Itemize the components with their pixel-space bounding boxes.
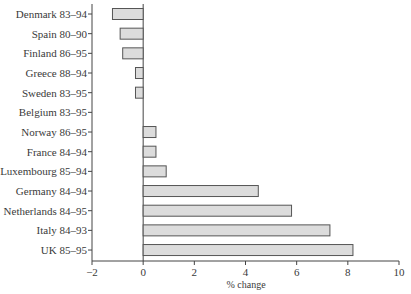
category-label: Belgium 83–95 [19, 106, 87, 118]
category-label: Italy 84–93 [37, 224, 87, 236]
bar [143, 146, 156, 157]
bar [135, 87, 143, 98]
category-label: France 84–94 [27, 146, 87, 158]
category-label: Greece 88–94 [26, 67, 87, 79]
x-tick-label: −2 [86, 266, 98, 278]
bar [143, 205, 291, 216]
x-tick-label: 4 [243, 266, 249, 278]
bar [143, 186, 258, 197]
x-tick-label: 2 [192, 266, 198, 278]
x-axis-label: % change [226, 279, 265, 290]
bar [143, 166, 166, 177]
category-label: UK 85–95 [41, 244, 87, 256]
category-label: Netherlands 84–95 [4, 205, 87, 217]
bar [120, 28, 143, 39]
category-label: Luxembourg 85–94 [0, 165, 87, 177]
bar-chart: Denmark 83–94Spain 80–90Finland 86–95Gre… [0, 0, 411, 294]
category-label: Finland 86–95 [23, 47, 87, 59]
bar [123, 48, 143, 59]
category-label: Spain 80–90 [32, 28, 87, 40]
category-label: Germany 84–94 [16, 185, 87, 197]
bar [143, 245, 353, 256]
x-tick-label: 0 [140, 266, 146, 278]
x-tick-label: 6 [294, 266, 300, 278]
bar [135, 68, 143, 79]
category-label: Norway 86–95 [21, 126, 87, 138]
bar [143, 225, 330, 236]
bar [112, 9, 143, 20]
category-label: Sweden 83–95 [22, 87, 87, 99]
category-label: Denmark 83–94 [16, 8, 87, 20]
bar [143, 127, 156, 138]
x-tick-label: 8 [345, 266, 351, 278]
x-tick-label: 10 [394, 266, 405, 278]
